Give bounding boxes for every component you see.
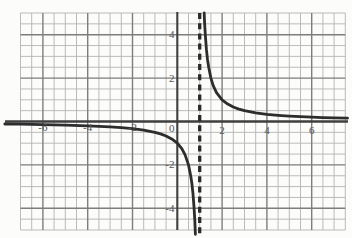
x-tick-label: 2 [219,124,225,136]
y-tick-label: -2 [165,158,174,170]
x-tick-label: -2 [128,121,137,133]
y-tick-label: -4 [165,202,175,214]
y-tick-label: 4 [169,28,175,40]
x-tick-label: -6 [38,121,48,133]
origin-label: 0 [169,122,175,134]
x-tick-label: -4 [83,121,93,133]
background [0,0,352,238]
function-graph: -6-4-224642-2-40 [0,0,352,238]
y-tick-label: 2 [169,72,175,84]
x-tick-label: 4 [264,124,270,136]
graph-figure: -6-4-224642-2-40 [0,0,352,238]
x-tick-label: 6 [309,124,315,136]
